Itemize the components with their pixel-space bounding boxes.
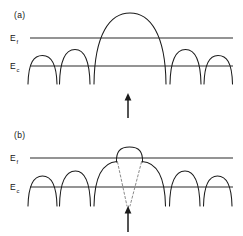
figure-root: (a) E f E c bbox=[0, 0, 243, 236]
band-diagram-figure: (a) E f E c bbox=[0, 0, 243, 236]
panel-b-excitation-arrow bbox=[125, 206, 132, 232]
panel-b-well-5 bbox=[204, 176, 233, 206]
panel-a-well-3 bbox=[94, 13, 166, 84]
panel-a-tag: (a) bbox=[14, 10, 25, 20]
panel-b-well-4 bbox=[170, 171, 201, 206]
panel-a-well-4 bbox=[170, 50, 201, 85]
panel-a: (a) E f E c bbox=[10, 10, 233, 118]
panel-b-well-3-right bbox=[142, 162, 166, 207]
panel-b-fermi-label-sub: f bbox=[17, 159, 19, 165]
panel-a-conduction-label: E c bbox=[10, 61, 20, 73]
panel-b-dashed-guide-left bbox=[118, 162, 128, 206]
panel-a-excitation-arrow bbox=[125, 93, 132, 118]
panel-b-conduction-label-main: E bbox=[10, 182, 16, 192]
panel-a-conduction-label-main: E bbox=[10, 61, 16, 71]
panel-a-fermi-label-sub: f bbox=[17, 39, 19, 45]
panel-b-tag: (b) bbox=[14, 130, 25, 140]
panel-a-well-5 bbox=[204, 56, 233, 85]
panel-a-well-1 bbox=[28, 56, 57, 85]
panel-b-trap-state-cap bbox=[116, 147, 142, 162]
panel-a-fermi-label: E f bbox=[10, 33, 19, 45]
panel-b-fermi-label: E f bbox=[10, 153, 19, 165]
panel-b-well-3-left bbox=[94, 162, 117, 207]
panel-b-arrow-head bbox=[125, 206, 132, 214]
panel-a-well-2 bbox=[60, 50, 91, 85]
panel-b: (b) E f E c bbox=[10, 130, 233, 232]
panel-b-well-2 bbox=[60, 171, 91, 206]
panel-a-fermi-label-main: E bbox=[10, 33, 16, 43]
panel-a-arrow-head bbox=[125, 93, 132, 101]
panel-b-conduction-label-sub: c bbox=[17, 188, 20, 194]
panel-b-conduction-label: E c bbox=[10, 182, 20, 194]
panel-b-well-1 bbox=[28, 176, 57, 206]
panel-b-dashed-guide-right bbox=[130, 162, 142, 206]
panel-b-fermi-label-main: E bbox=[10, 153, 16, 163]
panel-a-conduction-label-sub: c bbox=[17, 67, 20, 73]
